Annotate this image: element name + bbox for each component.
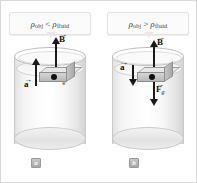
vector-arrow-overbar-acc-a: → — [24, 75, 32, 84]
cylinder-base-b — [112, 127, 184, 150]
vector-gravity-label-b: →Fg — [156, 84, 165, 94]
panel-a: ρobj<ρfluid →B →Fg →a — [1, 1, 99, 183]
callout-text-a: ρobj<ρfluid — [31, 19, 69, 29]
callout-pointer-b — [144, 32, 154, 38]
vector-acceleration-arrowhead-a — [32, 58, 40, 65]
buoyancy-figure: ρobj<ρfluid →B →Fg →a — [0, 0, 197, 183]
vector-arrow-overbar-acc-b: → — [120, 58, 128, 67]
object-block-b — [137, 67, 173, 82]
object-block-a — [39, 67, 75, 82]
center-of-mass-dot-b — [149, 74, 155, 80]
vector-acceleration-label-b: →a — [120, 62, 125, 72]
panel-b: ρobj>ρfluid →B →Fg →a — [99, 1, 197, 183]
cylinder-rim-a — [14, 47, 86, 66]
callout-text-b: ρobj>ρfluid — [129, 19, 167, 29]
panel-label-b: b — [129, 158, 139, 168]
vector-acceleration-shaft-b — [132, 65, 134, 80]
vector-arrow-overbar-b-a: → — [59, 30, 67, 39]
panel-label-a: a — [31, 158, 41, 168]
vector-gravity-arrowhead-b — [150, 99, 158, 106]
vector-buoyant-label-b: →B — [157, 37, 163, 47]
cylinder-a — [14, 47, 86, 152]
vector-arrow-overbar-b-b: → — [157, 33, 165, 42]
vector-acceleration-shaft-a — [35, 65, 37, 86]
center-of-mass-dot-a — [51, 74, 57, 80]
vector-acceleration-arrowhead-b — [129, 79, 137, 86]
cylinder-base-a — [14, 127, 86, 150]
vector-buoyant-label-a: →B — [59, 34, 65, 44]
vector-acceleration-label-a: →a — [24, 79, 29, 89]
